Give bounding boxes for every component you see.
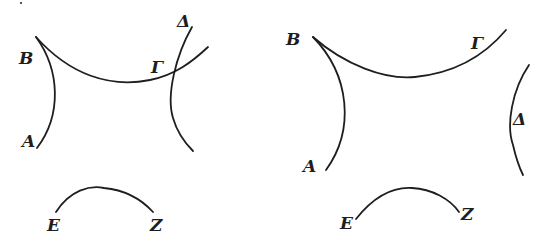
left-figure: B A Γ Δ E Z: [18, 11, 208, 235]
left-arc-bg: [36, 37, 208, 82]
right-figure: B A Γ Δ E Z: [285, 29, 529, 233]
right-label-g: Γ: [470, 33, 485, 53]
left-label-b: B: [18, 48, 33, 68]
left-label-d: Δ: [176, 11, 190, 31]
right-arc-ez: [356, 188, 459, 219]
print-speck: [20, 2, 22, 4]
left-label-a: A: [20, 131, 35, 151]
left-label-z: Z: [149, 215, 163, 235]
right-label-a: A: [301, 156, 316, 176]
right-label-e: E: [339, 213, 354, 233]
right-label-z: Z: [460, 204, 474, 224]
left-label-e: E: [46, 215, 61, 235]
left-label-g: Γ: [150, 57, 165, 77]
left-arc-ez: [56, 187, 153, 212]
geometry-diagram: B A Γ Δ E Z B A Γ Δ E Z: [0, 0, 537, 241]
right-label-b: B: [285, 29, 300, 49]
left-arc-d: [171, 27, 193, 151]
right-label-d: Δ: [512, 109, 526, 129]
